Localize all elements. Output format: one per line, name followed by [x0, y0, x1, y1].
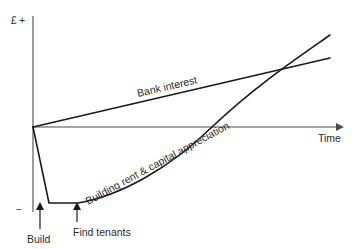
- x-axis-arrow-icon: [336, 123, 344, 131]
- series-line-bank-interest: [33, 58, 330, 127]
- build-marker-arrow-icon: [36, 202, 44, 210]
- series-label-building-value: Building rent & capital appreciation: [83, 119, 231, 207]
- y-axis-negative-label: −: [16, 204, 22, 215]
- annotation-label-build: Build: [27, 233, 51, 245]
- y-axis-positive-label: £ +: [11, 15, 25, 26]
- series-line-building-value: [33, 35, 330, 203]
- chart-canvas: £ + − Time Bank interest Building rent &…: [0, 0, 356, 249]
- chart-figure: £ + − Time Bank interest Building rent &…: [0, 0, 356, 249]
- x-axis-label: Time: [318, 132, 341, 144]
- annotation-label-find-tenants: Find tenants: [73, 226, 131, 238]
